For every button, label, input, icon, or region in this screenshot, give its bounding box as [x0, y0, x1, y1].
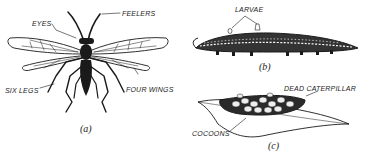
wasp-illustration	[0, 0, 373, 153]
label-larvae: LARVAE	[235, 6, 263, 13]
larva-illustration	[193, 16, 358, 56]
label-dead-caterpillar: DEAD CATERPILLAR	[284, 85, 356, 92]
caption-b: (b)	[259, 62, 271, 72]
label-feelers: FEELERS	[122, 10, 155, 17]
caption-a: (a)	[80, 124, 92, 134]
label-six-legs: SIX LEGS	[5, 87, 39, 94]
label-eyes: EYES	[32, 20, 51, 27]
caption-c: (c)	[268, 141, 279, 151]
label-cocoons: COCOONS	[192, 130, 230, 137]
label-four-wings: FOUR WINGS	[126, 86, 174, 93]
